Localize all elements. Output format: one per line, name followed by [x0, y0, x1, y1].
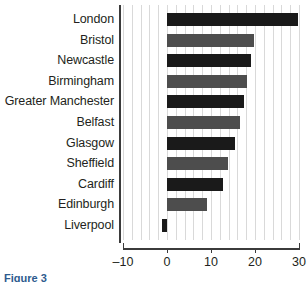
x-axis-tick — [255, 248, 256, 253]
x-axis-tick-label: 30 — [279, 255, 308, 269]
x-axis-tick — [299, 243, 300, 249]
category-label: Glasgow — [0, 137, 114, 150]
bar — [167, 116, 240, 129]
x-axis-tick-label: –10 — [103, 255, 143, 269]
bar — [167, 34, 254, 47]
x-axis-tick-label: 20 — [235, 255, 275, 269]
figure-caption: Figure 3 — [4, 272, 47, 282]
category-label: Newcastle — [0, 54, 114, 67]
plot-area: –100102030 — [119, 5, 304, 245]
bar — [167, 75, 247, 88]
bar — [167, 54, 251, 67]
bar-series — [119, 5, 304, 240]
x-axis-tick — [167, 248, 168, 253]
category-label: Bristol — [0, 34, 114, 47]
category-label: London — [0, 13, 114, 26]
bar — [167, 157, 228, 170]
bar — [167, 95, 244, 108]
category-axis-labels: LondonBristolNewcastleBirminghamGreater … — [0, 5, 114, 245]
category-label: Birmingham — [0, 75, 114, 88]
x-axis-tick — [123, 243, 124, 249]
category-label: Edinburgh — [0, 198, 114, 211]
bar — [162, 219, 167, 232]
x-axis-tick — [211, 248, 212, 253]
figure-container: LondonBristolNewcastleBirminghamGreater … — [0, 0, 308, 282]
category-label: Sheffield — [0, 157, 114, 170]
category-label: Belfast — [0, 116, 114, 129]
bar — [167, 178, 223, 191]
category-label: Liverpool — [0, 219, 114, 232]
bar — [167, 137, 235, 150]
bar — [167, 198, 207, 211]
x-axis-tick-label: 0 — [147, 255, 187, 269]
x-axis-tick-label: 10 — [191, 255, 231, 269]
category-label: Greater Manchester — [0, 95, 114, 108]
bar — [167, 13, 298, 26]
category-label: Cardiff — [0, 178, 114, 191]
